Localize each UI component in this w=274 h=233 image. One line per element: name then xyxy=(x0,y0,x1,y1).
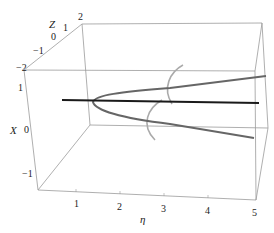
eta-tick-label: 2 xyxy=(117,201,122,212)
straight-line xyxy=(62,100,259,103)
x-axis-title: X xyxy=(9,124,18,136)
eta-tick-label: 5 xyxy=(252,207,257,218)
z-tick-label: −2 xyxy=(16,62,27,73)
eta-tick-label: 3 xyxy=(161,203,166,214)
z-tick-label: −1 xyxy=(33,45,44,56)
parabola-curve xyxy=(93,76,266,138)
z-axis-title: Z xyxy=(49,18,56,30)
eta-axis-title: η xyxy=(140,213,145,225)
plot-box xyxy=(24,23,268,200)
arc-curve-lower xyxy=(147,100,162,140)
z-tick-label: 0 xyxy=(51,31,56,42)
x-tick-label: 0 xyxy=(24,124,29,135)
x-tick-label: 1 xyxy=(18,82,23,93)
3d-plot: −2 −1 0 1 2 Z 1 0 −1 X 1 2 3 4 5 η xyxy=(0,0,274,233)
eta-tick-label: 4 xyxy=(205,205,210,216)
eta-tick-label: 1 xyxy=(74,198,79,209)
z-tick-label: 2 xyxy=(78,11,83,22)
x-tick-label: −1 xyxy=(22,168,33,179)
z-tick-label: 1 xyxy=(63,22,68,33)
